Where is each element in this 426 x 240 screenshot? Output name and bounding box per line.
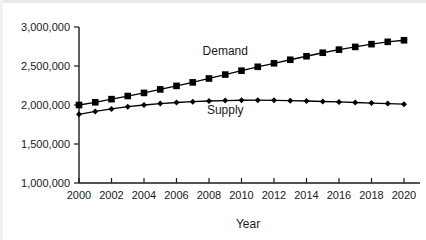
data-point-marker	[287, 98, 293, 104]
x-axis-tick-marks	[79, 178, 404, 183]
data-point-marker	[271, 97, 277, 103]
chart-page: 1,000,0001,500,0002,000,0002,500,0003,00…	[0, 0, 426, 240]
data-point-marker	[190, 99, 196, 105]
data-point-marker	[352, 44, 359, 51]
series-label-supply: Supply	[207, 103, 244, 117]
x-tick-label: 2008	[197, 189, 221, 201]
x-axis-tick-labels: 2000200220042006200820102012201420162018…	[67, 189, 416, 201]
data-point-marker	[254, 63, 261, 70]
data-point-marker	[141, 90, 148, 97]
data-point-marker	[304, 98, 310, 104]
y-tick-label: 2,000,000	[21, 99, 70, 111]
data-point-marker	[125, 104, 131, 110]
data-point-marker	[157, 101, 163, 107]
data-point-marker	[124, 93, 131, 100]
data-point-marker	[206, 75, 213, 82]
supply-demand-line-chart: 1,000,0001,500,0002,000,0002,500,0003,00…	[0, 0, 426, 240]
series-label-demand: Demand	[203, 44, 248, 58]
data-point-marker	[157, 86, 164, 93]
data-point-marker	[385, 101, 391, 107]
y-axis-tick-labels: 1,000,0001,500,0002,000,0002,500,0003,00…	[21, 21, 70, 189]
data-point-marker	[108, 96, 115, 103]
data-point-marker	[401, 101, 407, 107]
x-tick-label: 2000	[67, 189, 91, 201]
x-tick-label: 2004	[132, 189, 156, 201]
data-point-marker	[303, 53, 310, 60]
data-point-marker	[352, 100, 358, 106]
data-point-marker	[287, 56, 294, 63]
data-point-marker	[336, 46, 343, 53]
x-tick-label: 2010	[229, 189, 253, 201]
data-point-marker	[76, 111, 82, 117]
y-tick-label: 2,500,000	[21, 60, 70, 72]
data-point-marker	[173, 83, 180, 90]
x-tick-label: 2018	[359, 189, 383, 201]
data-point-marker	[189, 79, 196, 86]
x-tick-label: 2006	[164, 189, 188, 201]
data-point-marker	[320, 98, 326, 104]
data-point-marker	[76, 102, 83, 109]
data-point-marker	[239, 97, 245, 103]
data-point-marker	[222, 71, 229, 78]
x-tick-label: 2020	[392, 189, 416, 201]
data-point-marker	[109, 106, 115, 112]
data-point-marker	[319, 49, 326, 56]
data-point-marker	[92, 108, 98, 114]
data-point-marker	[336, 99, 342, 105]
data-point-marker	[384, 39, 391, 46]
data-point-marker	[271, 60, 278, 67]
y-tick-label: 3,000,000	[21, 21, 70, 33]
data-point-marker	[369, 100, 375, 106]
x-axis-title: Year	[236, 217, 260, 231]
y-tick-label: 1,500,000	[21, 138, 70, 150]
data-point-marker	[368, 41, 375, 48]
data-point-marker	[174, 100, 180, 106]
data-point-marker	[92, 99, 99, 106]
data-point-marker	[141, 102, 147, 108]
data-point-marker	[238, 67, 245, 74]
data-point-marker	[255, 97, 261, 103]
data-point-marker	[401, 37, 408, 44]
x-tick-label: 2012	[262, 189, 286, 201]
x-tick-label: 2014	[294, 189, 318, 201]
x-tick-label: 2016	[327, 189, 351, 201]
x-tick-label: 2002	[99, 189, 123, 201]
y-tick-label: 1,000,000	[21, 177, 70, 189]
